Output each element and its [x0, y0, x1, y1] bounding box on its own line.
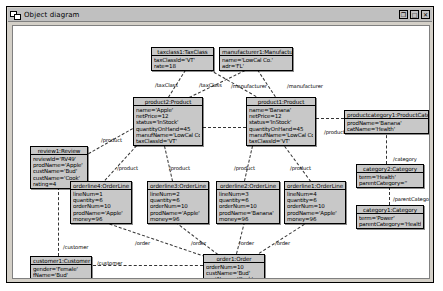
object-header: review1:Review — [31, 147, 87, 155]
object-node-product1[interactable]: product1:Productname='Banana'netPrice=12… — [246, 97, 316, 146]
label-order-ol2: /order — [239, 240, 254, 246]
object-attribute: prodName='Apple' — [287, 210, 343, 216]
object-attributes: term='Health'parentCategory='' — [357, 173, 423, 187]
object-attribute: catName='Health' — [347, 126, 426, 132]
label-order-ol4: /order — [135, 240, 150, 246]
label-category: /category — [393, 156, 417, 162]
link-category2-category1[interactable] — [389, 187, 390, 205]
object-attributes: taxClassId='VT'rate=18 — [152, 56, 213, 70]
object-attribute: parentCategory='Health' — [359, 221, 421, 227]
object-header: customer1:Customer — [31, 257, 91, 265]
label-order-ol1: /order — [275, 240, 290, 246]
object-attribute: money=96 — [219, 216, 277, 222]
link-product1-orderline2[interactable] — [244, 146, 253, 181]
object-attribute: prodName='Apple' — [150, 210, 206, 216]
link-orderline3-order1[interactable] — [175, 222, 218, 255]
object-attributes: lineNum=3quantity=6orderNum=10prodName='… — [217, 190, 279, 223]
object-attribute: rate=18 — [154, 63, 211, 69]
object-header: orderline3:OrderLine — [148, 182, 208, 190]
link-product1-orderline1[interactable] — [284, 146, 311, 182]
object-attributes: lineNum=2quantity=6orderNum=10prodName='… — [148, 190, 208, 223]
object-node-product2[interactable]: product2:Productname='Apple'netPrice=12s… — [133, 97, 203, 146]
application-window: Object diagram ❐ □ ✕ taxclass1:TaxClasst… — [6, 6, 434, 283]
link-product2-orderline3[interactable] — [164, 146, 173, 181]
label-manufacturer-right: /manufacturer — [287, 83, 323, 89]
label-product-review: /product — [101, 137, 122, 143]
object-node-productcategory1[interactable]: productcategory1:ProductCategoryprodName… — [344, 110, 429, 134]
object-attributes: prodName='Banana'catName='Health' — [345, 119, 428, 133]
object-attribute: taxClassId='VT' — [136, 138, 200, 144]
window-buttons: ❐ □ ✕ — [399, 10, 430, 19]
label-product-ol2: /product — [234, 165, 255, 171]
diagram-canvas[interactable]: taxclass1:TaxClasstaxClassId='VT'rate=18… — [12, 25, 430, 279]
object-attributes: name='Banana'netPrice=12status='InStock'… — [247, 106, 315, 145]
object-node-orderline4[interactable]: orderline4:OrderLinelineNum=1quantity=6o… — [70, 181, 132, 224]
object-attributes: orderNum=10custName='Bud'custName='Cook'… — [204, 263, 264, 279]
object-attribute: custName='Cook' — [206, 276, 262, 279]
object-attribute: lName='Cook' — [33, 278, 89, 279]
object-attribute: prodName='Apple' — [73, 210, 129, 216]
link-product1-productcategory1[interactable] — [316, 118, 344, 119]
object-attributes: lineNum=1quantity=6orderNum=10prodName='… — [71, 190, 131, 223]
object-header: product1:Product — [247, 98, 315, 106]
object-attribute: custName='Cook' — [33, 175, 85, 181]
object-node-category1[interactable]: category1:Categoryterm='Power'parentCate… — [356, 205, 424, 229]
link-productcategory1-category2[interactable] — [386, 130, 387, 164]
object-attributes: name='LowCal Co.'adr='FL' — [220, 56, 292, 70]
object-attribute: prodName='Banana' — [219, 210, 277, 216]
label-customer-order: /customer — [97, 260, 122, 266]
link-product2-product1-mid[interactable] — [203, 127, 246, 128]
label-taxclass-right: /taxClass — [199, 82, 222, 88]
object-node-orderline3[interactable]: orderline3:OrderLinelineNum=2quantity=6o… — [147, 181, 209, 224]
label-parentcategory: /parentCategory — [393, 196, 430, 202]
link-orderline2-order1[interactable] — [236, 222, 245, 254]
link-orderline1-order1[interactable] — [258, 221, 309, 254]
object-attribute: money=96 — [73, 216, 129, 222]
object-attributes: gender='Female'fName='Bud'lName='Cook' — [31, 265, 91, 279]
object-node-category2[interactable]: category2:Categoryterm='Health'parentCat… — [356, 164, 424, 188]
object-header: taxclass1:TaxClass — [152, 48, 213, 56]
object-header: orderline4:OrderLine — [71, 182, 131, 190]
object-header: manufacturer1:Manufacturer — [220, 48, 292, 56]
object-header: productcategory1:ProductCategory — [345, 111, 428, 119]
object-header: product2:Product — [134, 98, 202, 106]
label-product-ol3: /product — [169, 165, 190, 171]
object-attributes: lineNum=4quantity=6orderNum=10prodName='… — [285, 190, 345, 223]
object-diagram-icon — [10, 10, 21, 20]
object-header: order1:Order — [204, 255, 264, 263]
object-node-customer1[interactable]: customer1:Customergender='Female'fName='… — [30, 256, 92, 279]
object-attributes: term='Power'parentCategory='Health' — [357, 214, 423, 228]
label-product-ol1: /product — [290, 165, 311, 171]
object-header: orderline1:OrderLine — [285, 182, 345, 190]
maximize-button[interactable]: □ — [410, 10, 419, 19]
object-attribute: money=96 — [150, 216, 206, 222]
object-header: category1:Category — [357, 206, 423, 214]
link-orderline4-order1[interactable] — [105, 222, 205, 257]
label-order-ol3: /order — [191, 240, 206, 246]
object-header: orderline2:OrderLine — [217, 182, 279, 190]
object-header: category2:Category — [357, 165, 423, 173]
object-attribute: adr='FL' — [222, 63, 290, 69]
object-node-order1[interactable]: order1:OrderorderNum=10custName='Bud'cus… — [203, 254, 265, 279]
object-attribute: money=96 — [287, 216, 343, 222]
close-button[interactable]: ✕ — [421, 10, 430, 19]
window-titlebar: Object diagram ❐ □ ✕ — [8, 8, 432, 22]
object-node-manufacturer1[interactable]: manufacturer1:Manufacturername='LowCal C… — [219, 47, 293, 71]
object-attribute: parentCategory='' — [359, 180, 421, 186]
label-taxclass-left: /taxClass — [155, 82, 178, 88]
label-product-ol4: /product — [117, 165, 138, 171]
restore-button[interactable]: ❐ — [399, 10, 408, 19]
object-node-orderline1[interactable]: orderline1:OrderLinelineNum=4quantity=6o… — [284, 181, 346, 224]
link-review1-customer1[interactable] — [58, 187, 59, 256]
object-attribute: taxClassId='VT' — [249, 138, 313, 144]
label-manufacturer-left: /manufacturer — [231, 83, 267, 89]
window-title: Object diagram — [24, 11, 80, 19]
object-attributes: name='Apple'netPrice=12status='InStock'q… — [134, 106, 202, 145]
label-product-right: /product — [324, 129, 345, 135]
object-node-taxclass1[interactable]: taxclass1:TaxClasstaxClassId='VT'rate=18 — [151, 47, 214, 71]
object-node-orderline2[interactable]: orderline2:OrderLinelineNum=3quantity=6o… — [216, 181, 280, 224]
label-customer-top: /customer — [63, 244, 88, 250]
link-product2-orderline4[interactable] — [104, 145, 137, 181]
